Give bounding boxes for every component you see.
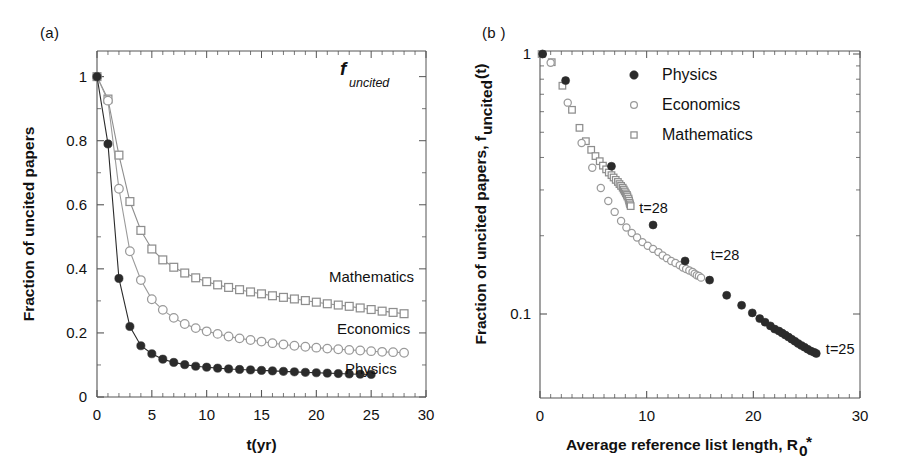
data-point [547, 59, 554, 66]
y-tick-label: 0.2 [66, 324, 87, 341]
data-point [224, 332, 233, 341]
legend-marker-economics [631, 102, 638, 109]
data-point [203, 363, 211, 371]
y-tick-label: 1 [523, 45, 531, 62]
data-point [257, 337, 266, 346]
data-point [126, 247, 135, 256]
data-point [378, 307, 386, 315]
data-point [334, 301, 342, 309]
y-axis-title-tail: (t) [472, 63, 489, 79]
data-point [345, 302, 353, 310]
panel-b-legend: PhysicsEconomicsMathematics [630, 66, 753, 143]
x-axis-title: t(yr) [246, 436, 276, 453]
data-point [214, 281, 222, 289]
legend-marker-mathematics [631, 132, 637, 138]
legend-label: Economics [662, 96, 740, 113]
y-tick-label: 0 [79, 388, 87, 405]
series-economics [93, 72, 409, 357]
data-point [378, 348, 387, 357]
series-mathematics [538, 51, 634, 210]
data-point [597, 184, 604, 191]
data-point [181, 269, 189, 277]
data-point [214, 364, 222, 372]
data-point [748, 309, 756, 317]
data-point [649, 221, 657, 229]
data-point [192, 362, 200, 370]
f-uncited-annotation: funcited [340, 58, 390, 90]
data-point [706, 276, 714, 284]
data-point [170, 358, 178, 366]
data-point [268, 339, 277, 348]
f-subscript: uncited [349, 76, 390, 90]
data-point [126, 322, 134, 330]
data-point [400, 348, 409, 357]
x-tick-label: 0 [93, 406, 101, 423]
data-point [356, 346, 365, 355]
x-tick-label: 25 [363, 406, 380, 423]
data-point [137, 342, 145, 350]
data-point [235, 365, 243, 373]
data-point [279, 367, 287, 375]
data-point [611, 208, 618, 215]
data-point [389, 348, 398, 357]
data-point [257, 366, 265, 374]
data-point [213, 330, 222, 339]
data-point [192, 274, 200, 282]
data-point [697, 274, 704, 281]
series-physics [93, 73, 375, 379]
y-axis-title: Fraction of uncited papers [20, 127, 37, 322]
data-point [258, 290, 266, 298]
series-label: Mathematics [329, 268, 414, 285]
data-point [148, 295, 157, 304]
data-point [576, 125, 583, 132]
data-point [247, 288, 255, 296]
panel-a-label: (a) [40, 24, 59, 41]
panel-b-label: (b ) [482, 24, 506, 41]
data-point [104, 140, 112, 148]
data-point [236, 286, 244, 294]
data-point [290, 341, 299, 350]
data-point [137, 276, 146, 285]
panel-a-series-labels: MathematicsEconomicsPhysics [329, 268, 414, 377]
data-point [334, 345, 343, 354]
data-point [159, 306, 168, 315]
x-axis-title-star: * [806, 433, 813, 450]
figure-root: (a) 05101520253000.20.40.60.81Mathematic… [0, 0, 912, 474]
data-point [115, 274, 123, 282]
x-axis-title-main: Average reference list length, R [566, 436, 798, 453]
time-annotation: t=28 [639, 200, 668, 216]
x-tick-label: 10 [198, 406, 215, 423]
series-label: Economics [337, 320, 410, 337]
x-tick-label: 30 [418, 406, 435, 423]
data-point [334, 369, 342, 377]
x-tick-label: 15 [253, 406, 270, 423]
data-point [203, 278, 211, 286]
y-tick-label: 1 [79, 68, 87, 85]
data-point [605, 197, 612, 204]
data-point [367, 306, 375, 314]
data-point [290, 295, 298, 303]
x-tick-label: 0 [536, 407, 544, 424]
data-point [246, 366, 254, 374]
x-tick-label: 30 [852, 407, 869, 424]
data-point [312, 369, 320, 377]
time-annotation: t=25 [826, 341, 855, 357]
data-point [148, 245, 156, 253]
x-tick-label: 10 [638, 407, 655, 424]
data-point [159, 355, 167, 363]
series-line [97, 77, 371, 375]
data-point [301, 368, 309, 376]
data-point [312, 298, 320, 306]
data-point [738, 301, 746, 309]
data-point [323, 300, 331, 308]
y-axis-title: Fraction of uncited papers, funcited(t) [472, 63, 495, 344]
data-point [225, 284, 233, 292]
data-point [301, 342, 310, 351]
data-point [812, 349, 820, 357]
x-tick-label: 20 [745, 407, 762, 424]
x-tick-label: 20 [308, 406, 325, 423]
data-point [290, 368, 298, 376]
legend-marker-physics [630, 71, 638, 79]
f-symbol: f [340, 58, 348, 79]
data-point [126, 198, 134, 206]
